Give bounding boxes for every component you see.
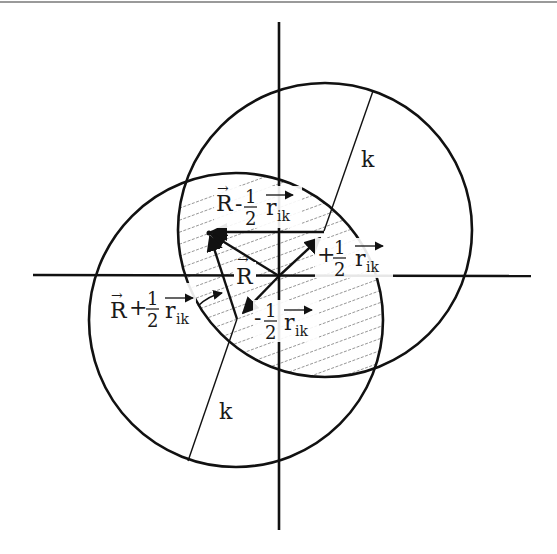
svg-text:2: 2 [265,322,276,343]
svg-text:1: 1 [334,237,345,258]
svg-text:→: → [111,287,123,303]
vector-arrow-glyph: → [237,251,249,267]
label-R: R → [234,251,256,289]
label-R-minus-half-r: R → - 1 2 r ik [214,180,302,229]
svg-text:ik: ik [366,259,379,275]
svg-text:r: r [165,298,176,323]
svg-text:1: 1 [147,288,158,309]
upper-k-label: k [361,147,375,172]
label-plus-half-r: + 1 2 r ik [315,237,393,280]
svg-text:→: → [217,180,229,196]
R-tip-dot [207,231,212,236]
svg-text:1: 1 [265,300,276,321]
svg-text:2: 2 [334,259,345,280]
svg-text:ik: ik [295,323,308,339]
svg-text:ik: ik [277,208,290,224]
label-minus-half-r: - 1 2 r ik [253,300,319,343]
svg-text:r: r [266,195,277,220]
svg-text:2: 2 [147,310,158,331]
svg-text:r: r [284,310,295,335]
label-pointer-arrow [198,293,222,306]
svg-text:1: 1 [245,186,256,207]
lower-k-label: k [219,399,233,424]
svg-text:R: R [236,264,254,289]
label-R-plus-half-r: R → + 1 2 r ik [108,283,196,331]
svg-text:ik: ik [176,311,189,327]
svg-text:r: r [355,246,366,271]
svg-text:2: 2 [245,208,256,229]
horizontal-axis [33,275,531,276]
diagram-canvas: k k R → R → - 1 2 r ik + 1 2 r ik - 1 2 … [0,0,557,554]
vector-plus-half-r-arrow [279,238,320,276]
svg-text:+: + [317,242,335,267]
svg-text:+: + [129,295,147,320]
svg-text:-: - [235,191,242,216]
svg-text:-: - [254,305,261,330]
lower-radius-line [188,319,237,461]
